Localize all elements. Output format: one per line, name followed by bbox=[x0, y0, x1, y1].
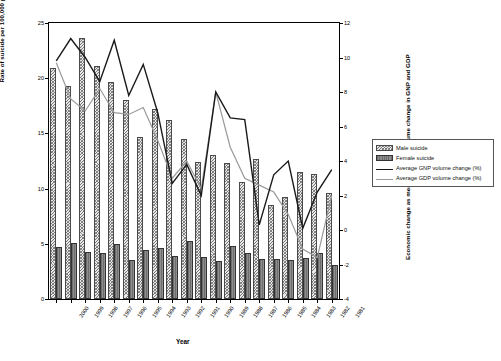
y-left-tick-25: 25 bbox=[26, 20, 44, 26]
x-tickmark bbox=[332, 300, 333, 303]
x-tickmark bbox=[303, 300, 304, 303]
x-tickmark bbox=[216, 300, 217, 303]
y-left-tickmark bbox=[45, 133, 48, 134]
y-left-tick-20: 20 bbox=[26, 75, 44, 81]
legend-label-female: Female suicide bbox=[396, 155, 434, 161]
x-tickmark bbox=[288, 300, 289, 303]
legend-label-gnp: Average GNP volume change (%) bbox=[396, 165, 481, 171]
y-right-tick-4: 4 bbox=[344, 158, 347, 164]
legend-item-gnp: Average GNP volume change (%) bbox=[376, 163, 490, 173]
y-right-tickmark bbox=[340, 127, 343, 128]
y-right-tick--4: -4 bbox=[344, 296, 349, 302]
y-right-tickmark bbox=[340, 23, 343, 24]
y-right-tick-6: 6 bbox=[344, 124, 347, 130]
x-tickmark bbox=[317, 300, 318, 303]
y-right-tickmark bbox=[340, 265, 343, 266]
y-left-tickmark bbox=[45, 189, 48, 190]
x-tickmark bbox=[274, 300, 275, 303]
x-tickmark bbox=[143, 300, 144, 303]
chart-legend: Male suicide Female suicide Average GNP … bbox=[372, 139, 494, 187]
y-left-tickmark bbox=[45, 23, 48, 24]
gdp-line bbox=[56, 63, 332, 258]
suicide-and-economy-chart: Rate of suicide per 100,000 population E… bbox=[0, 0, 501, 361]
y-left-tick-10: 10 bbox=[26, 186, 44, 192]
y-right-tickmark bbox=[340, 161, 343, 162]
y-right-tick-10: 10 bbox=[344, 55, 350, 61]
legend-item-male-suicide: Male suicide bbox=[376, 143, 490, 153]
plot-area bbox=[48, 22, 340, 300]
y-left-tickmark bbox=[45, 299, 48, 300]
plot-inner bbox=[49, 23, 339, 299]
x-tickmark bbox=[114, 300, 115, 303]
x-tickmark bbox=[245, 300, 246, 303]
y-left-tick-0: 0 bbox=[26, 296, 44, 302]
x-axis-title: Year bbox=[176, 338, 190, 345]
y-right-tick-0: 0 bbox=[344, 227, 347, 233]
x-tickmark bbox=[129, 300, 130, 303]
y-right-tickmark bbox=[340, 230, 343, 231]
legend-line-gdp-icon bbox=[376, 179, 393, 180]
y-right-tickmark bbox=[340, 58, 343, 59]
legend-label-gdp: Average GDP volume change (%) bbox=[396, 175, 481, 181]
x-tickmark bbox=[71, 300, 72, 303]
y-right-tick--2: -2 bbox=[344, 262, 349, 268]
legend-item-gdp: Average GDP volume change (%) bbox=[376, 173, 490, 183]
x-tickmark bbox=[187, 300, 188, 303]
y-left-tickmark bbox=[45, 78, 48, 79]
x-tickmark bbox=[100, 300, 101, 303]
gnp-line bbox=[56, 39, 332, 229]
y-right-tickmark bbox=[340, 299, 343, 300]
y-right-tickmark bbox=[340, 196, 343, 197]
legend-swatch-male-icon bbox=[376, 145, 393, 151]
y-left-tickmark bbox=[45, 244, 48, 245]
y-right-tick-12: 12 bbox=[344, 20, 350, 26]
y-left-tick-5: 5 bbox=[26, 241, 44, 247]
lines-layer bbox=[49, 23, 339, 299]
legend-label-male: Male suicide bbox=[396, 145, 428, 151]
x-tickmark bbox=[56, 300, 57, 303]
x-tickmark bbox=[158, 300, 159, 303]
legend-item-female-suicide: Female suicide bbox=[376, 153, 490, 163]
y-right-tick-2: 2 bbox=[344, 193, 347, 199]
y-right-tick-8: 8 bbox=[344, 89, 347, 95]
y-axis-left-title: Rate of suicide per 100,000 population bbox=[0, 0, 5, 106]
y-left-tick-15: 15 bbox=[26, 130, 44, 136]
x-tickmark bbox=[85, 300, 86, 303]
legend-swatch-female-icon bbox=[376, 155, 393, 161]
y-right-tickmark bbox=[340, 92, 343, 93]
x-tickmark bbox=[201, 300, 202, 303]
legend-line-gnp-icon bbox=[376, 169, 393, 170]
x-tickmark bbox=[230, 300, 231, 303]
x-tickmark bbox=[259, 300, 260, 303]
x-tickmark bbox=[172, 300, 173, 303]
